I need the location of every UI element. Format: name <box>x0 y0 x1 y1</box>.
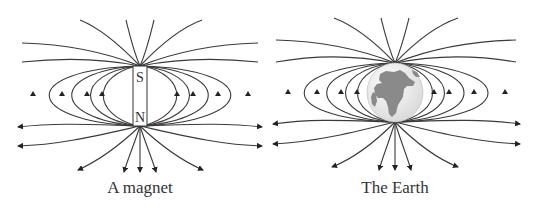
magnet-caption: A magnet <box>60 178 220 198</box>
bar-magnet: S N <box>133 66 147 126</box>
north-pole-label: N <box>135 110 145 125</box>
earth-globe <box>367 63 423 122</box>
south-pole-label: S <box>136 70 144 85</box>
earth-caption: The Earth <box>315 178 475 198</box>
